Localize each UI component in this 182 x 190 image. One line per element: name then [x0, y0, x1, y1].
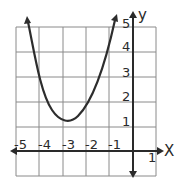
y-tick-label: 3: [122, 65, 130, 80]
x-tick-label: -4: [38, 137, 51, 152]
curve-arrow-left: [24, 16, 31, 24]
y-tick-label: 2: [122, 89, 130, 104]
parabola-graph: -5 -4 -3 -2 -1 1 1 2 3 4 5 X y: [0, 0, 182, 190]
x-tick-label: -3: [62, 137, 75, 152]
y-tick-labels: 1 2 3 4 5: [122, 16, 130, 129]
y-tick-label: 5: [122, 16, 130, 31]
x-tick-label: 1: [148, 150, 156, 165]
x-tick-label: -5: [14, 137, 27, 152]
y-tick-label: 4: [122, 39, 130, 54]
y-tick-label: 1: [122, 114, 130, 129]
parabola-curve: [24, 14, 118, 121]
curve-arrow-right: [111, 14, 118, 22]
y-axis-label: y: [138, 6, 147, 24]
x-tick-label: -2: [85, 137, 98, 152]
x-tick-label: -1: [108, 137, 121, 152]
x-axis-label: X: [164, 142, 174, 160]
grid: [16, 27, 156, 176]
